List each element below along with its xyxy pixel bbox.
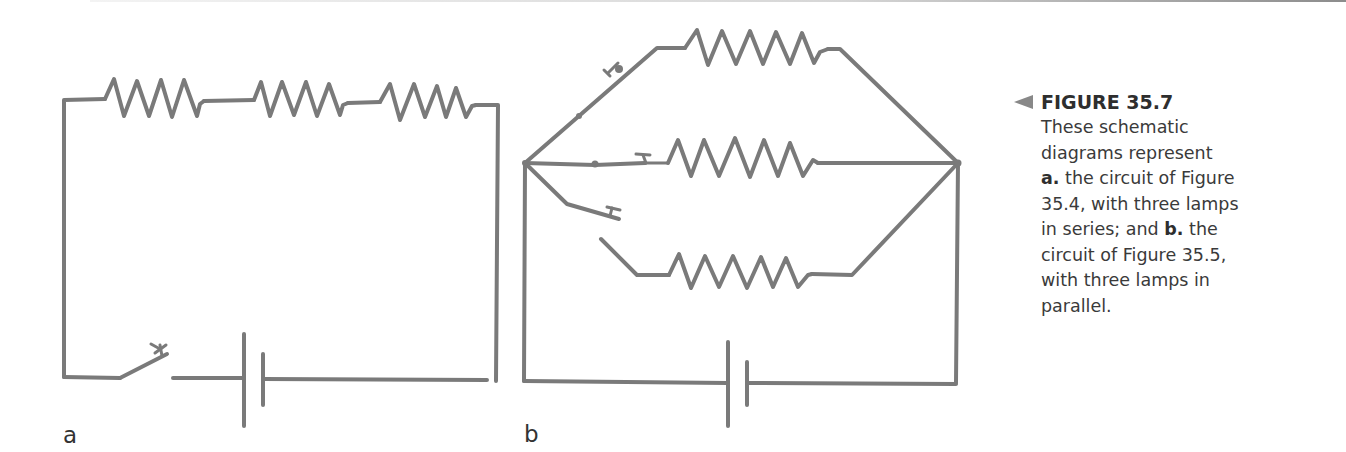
circuit-b-switch-1-icon bbox=[604, 63, 623, 76]
circuit-b-lamp-2-resistor-icon bbox=[668, 138, 818, 177]
circuit-b-lamp-3-resistor-icon bbox=[669, 254, 812, 288]
circuit-b-left-wire bbox=[524, 163, 525, 381]
panel-label-b: b bbox=[524, 423, 539, 446]
caption-line-8: parallel. bbox=[1041, 294, 1341, 320]
caption-line-2: diagrams represent bbox=[1041, 141, 1341, 167]
caption-line-5-start: in series; and bbox=[1041, 219, 1164, 239]
circuit-a-wire-1-2 bbox=[204, 100, 254, 101]
circuit-b-bottom-branch-switch-arm bbox=[525, 163, 619, 219]
circuit-b-bottom-left-wire bbox=[524, 381, 728, 383]
circuit-a-bottom-right-wire bbox=[263, 379, 487, 380]
circuit-b-bottom-branch-right-wire bbox=[812, 163, 958, 275]
panel-label-a: a bbox=[63, 424, 77, 447]
circuit-a-left-wire bbox=[64, 99, 105, 377]
circuit-a-lamp-1-resistor-icon bbox=[105, 79, 204, 117]
circuit-a-battery-icon bbox=[244, 334, 263, 426]
caption-line-6: circuit of Figure 35.5, bbox=[1041, 243, 1341, 269]
circuit-a-lamp-2-resistor-icon bbox=[254, 82, 348, 116]
circuit-b-bottom-right-wire bbox=[747, 383, 956, 384]
circuit-b-left-node bbox=[522, 160, 528, 166]
figure-caption: FIGURE 35.7 These schematic diagrams rep… bbox=[1041, 89, 1341, 319]
circuit-a-switch-icon bbox=[120, 344, 167, 378]
caption-line-3: a. the circuit of Figure bbox=[1041, 166, 1341, 192]
caption-line-4: 35.4, with three lamps bbox=[1041, 192, 1341, 218]
circuit-a-wire-2-3 bbox=[348, 102, 380, 103]
circuit-b-lamp-1-resistor-icon bbox=[685, 30, 828, 65]
figure-number: FIGURE 35.7 bbox=[1041, 89, 1173, 115]
circuit-a-right-wire bbox=[476, 105, 498, 381]
circuit-b-top-junction-dot bbox=[576, 113, 582, 119]
circuit-b-bottom-branch-left-wire bbox=[601, 239, 669, 275]
circuit-b-middle-junction-dot bbox=[592, 161, 599, 168]
caption-line-3-text: the circuit of Figure bbox=[1059, 168, 1234, 188]
circuit-b-right-wire bbox=[956, 163, 958, 383]
circuit-b bbox=[522, 30, 962, 426]
part-a-marker: a. bbox=[1041, 168, 1059, 188]
caption-line-5: in series; and b. the bbox=[1041, 217, 1341, 243]
caption-pointer-arrow-icon bbox=[1014, 95, 1033, 109]
figure-title: FIGURE 35.7 bbox=[1014, 89, 1341, 115]
circuit-b-top-left-diagonal bbox=[525, 48, 685, 163]
part-b-marker: b. bbox=[1164, 219, 1183, 239]
circuit-b-right-node bbox=[955, 160, 962, 167]
circuit-b-battery-icon bbox=[728, 342, 747, 426]
circuit-a bbox=[64, 79, 498, 426]
caption-line-1: These schematic bbox=[1041, 115, 1341, 141]
circuit-a-bottom-left-wire bbox=[64, 377, 120, 378]
circuit-b-middle-left-wire bbox=[525, 163, 645, 165]
circuit-a-lamp-3-resistor-icon bbox=[380, 84, 476, 120]
circuit-b-switch-3-icon bbox=[607, 207, 620, 216]
circuit-b-top-right-diagonal bbox=[828, 49, 958, 163]
caption-line-5-rest: the bbox=[1183, 219, 1217, 239]
caption-line-7: with three lamps in bbox=[1041, 268, 1341, 294]
caption-body: These schematic diagrams represent a. th… bbox=[1041, 115, 1341, 319]
